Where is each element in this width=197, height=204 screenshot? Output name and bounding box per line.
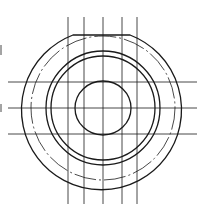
drawing-canvas: [0, 0, 197, 204]
horizontal-lines: [8, 82, 197, 134]
outer-profile: [21, 35, 181, 190]
flange-drawing: [0, 0, 197, 204]
